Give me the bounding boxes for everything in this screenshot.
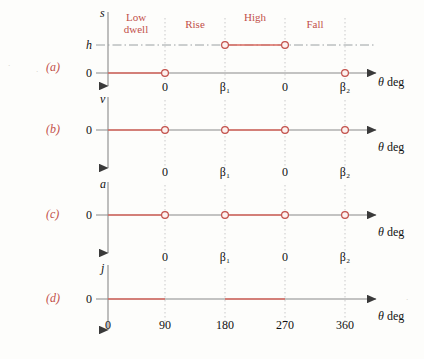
panel-b-x-axis-label: θ deg [378,140,404,155]
panel-a-marker-90 [162,70,169,77]
panel-a-y-tick-zero: 0 [68,66,92,81]
deg-text: deg [387,225,404,239]
axis-variable-s: s [100,6,105,21]
panel-b-marker-270 [282,127,289,134]
panel-c-marker-270 [282,212,289,219]
panel-c-tick-0-first: 0 [145,250,185,265]
panel-b-marker-180 [222,127,229,134]
panel-c-marker-90 [162,212,169,219]
panel-c-y-tick-zero: 0 [68,208,92,223]
bottom-tick-270: 270 [265,318,305,333]
panel-b-tick-0-second: 0 [265,165,305,180]
bottom-tick-360: 360 [325,318,365,333]
bottom-tick-90: 90 [145,318,185,333]
axis-variable-a: a [100,177,106,192]
panel-letter-d: (d) [46,291,60,306]
panel-b-marker-360 [342,127,349,134]
theta-symbol: θ [378,309,384,323]
theta-symbol: θ [378,140,384,154]
panel-c-tick-0-second: 0 [265,250,305,265]
panel-a-x-axis-label: θ deg [378,75,404,90]
phase-label-low-dwell: Low dwell [112,12,160,36]
panel-b-tick-beta2: β₂ [325,165,365,180]
phase-rise-line1: Rise [185,18,205,30]
panel-b-tick-0-first: 0 [145,165,185,180]
panel-d-x-axis-label: θ deg [378,309,404,324]
panel-a-marker-180 [222,42,229,49]
panel-a-tick-0-second: 0 [265,80,305,95]
phase-high-dwell-line1: High [244,11,266,23]
phase-label-rise: Rise [171,19,219,31]
phase-label-high-dwell: High [231,12,279,24]
theta-symbol: θ [378,75,384,89]
panel-a-tick-beta2: β₂ [325,80,365,95]
phase-low-dwell-line2: dwell [124,23,148,35]
deg-text: deg [387,75,404,89]
panel-a-tick-beta1: β₁ [205,80,245,95]
panel-a-marker-360 [342,70,349,77]
panel-letter-c: (c) [46,207,59,222]
phase-label-fall: Fall [291,19,339,31]
panel-letter-a: (a) [46,60,60,75]
panel-c-acceleration [96,182,376,253]
phase-low-dwell-line1: Low [126,11,146,23]
panel-c-x-axis-label: θ deg [378,225,404,240]
panel-b-tick-beta1: β₁ [205,165,245,180]
scan-artifact: · [36,68,38,76]
panel-a-marker-270 [282,42,289,49]
panel-c-marker-180 [222,212,229,219]
panel-c-tick-beta1: β₁ [205,250,245,265]
scan-artifact: · [406,296,408,304]
panel-letter-b: (b) [46,122,60,137]
scan-artifact: · [8,62,10,70]
panel-d-y-tick-zero: 0 [68,292,92,307]
bottom-tick-180: 180 [205,318,245,333]
phase-fall-line1: Fall [306,18,323,30]
deg-text: deg [387,309,404,323]
panel-c-marker-360 [342,212,349,219]
panel-b-marker-90 [162,127,169,134]
deg-text: deg [387,140,404,154]
panel-b-y-tick-zero: 0 [68,123,92,138]
axis-variable-v: v [100,92,105,107]
panel-a-tick-0-first: 0 [145,80,185,95]
theta-symbol: θ [378,225,384,239]
y-tick-label-h: h [68,38,92,53]
bottom-tick-0: 0 [88,318,128,333]
panel-c-tick-beta2: β₂ [325,250,365,265]
panel-b-velocity [96,97,376,168]
axis-variable-j: j [101,261,104,276]
